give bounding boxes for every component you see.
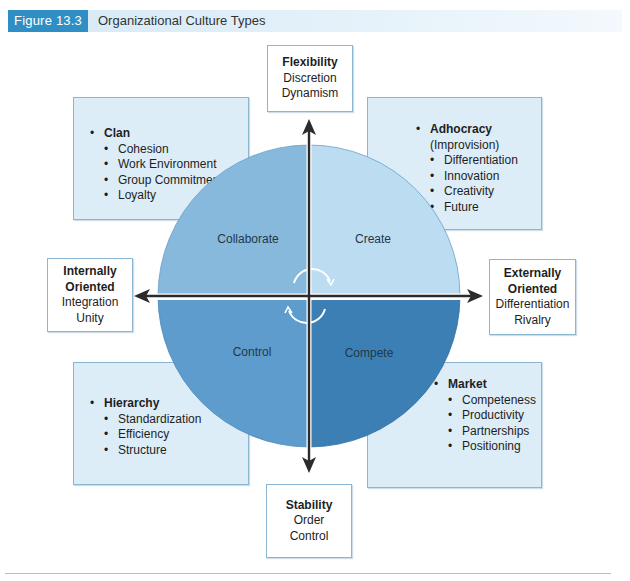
externally-title: Oriented (490, 282, 575, 298)
bottom-divider (5, 573, 611, 574)
quadrant-label-create: Create (323, 232, 423, 246)
flexibility-line: Discretion (268, 71, 352, 87)
internally-oriented-box: Internally Oriented Integration Unity (47, 258, 133, 332)
flexibility-title: Flexibility (268, 55, 352, 71)
quadrant-label-compete: Compete (319, 346, 419, 360)
stability-line: Order (267, 513, 351, 529)
externally-line: Differentiation (490, 297, 575, 313)
flexibility-box: Flexibility Discretion Dynamism (267, 45, 353, 112)
internally-title: Oriented (48, 280, 132, 296)
stability-box: Stability Order Control (266, 484, 352, 558)
flexibility-line: Dynamism (268, 86, 352, 102)
externally-oriented-box: Externally Oriented Differentiation Riva… (489, 259, 576, 335)
quadrant-label-control: Control (202, 345, 302, 359)
internally-title: Internally (48, 264, 132, 280)
externally-line: Rivalry (490, 313, 575, 329)
internally-line: Integration (48, 295, 132, 311)
stability-title: Stability (267, 498, 351, 514)
stability-line: Control (267, 529, 351, 545)
quadrant-label-collaborate: Collaborate (198, 232, 298, 246)
internally-line: Unity (48, 311, 132, 327)
externally-title: Externally (490, 266, 575, 282)
